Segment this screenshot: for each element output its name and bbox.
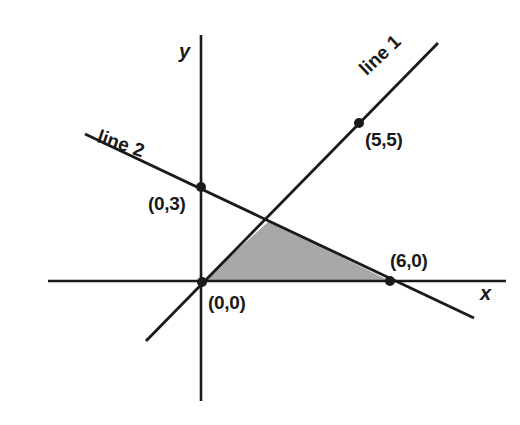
point-marker-6-0 xyxy=(385,276,395,286)
point-label-6-0: (6,0) xyxy=(390,251,428,270)
line-1-graph xyxy=(146,43,438,341)
line-2-graph xyxy=(85,134,474,318)
point-marker-0-3 xyxy=(196,182,206,192)
coordinate-plane-svg xyxy=(0,0,520,425)
shaded-triangle-region xyxy=(202,221,390,282)
x-axis-label: x xyxy=(480,283,491,303)
y-axis-label: y xyxy=(179,41,190,61)
point-label-0-0: (0,0) xyxy=(208,293,246,312)
point-marker-5-5 xyxy=(354,118,364,128)
point-marker-origin xyxy=(197,277,207,287)
graph-figure: line 1 line 2 y x (5,5) (0,3) (0,0) (6,0… xyxy=(0,0,520,425)
point-label-0-3: (0,3) xyxy=(148,194,186,213)
point-label-5-5: (5,5) xyxy=(365,130,403,149)
